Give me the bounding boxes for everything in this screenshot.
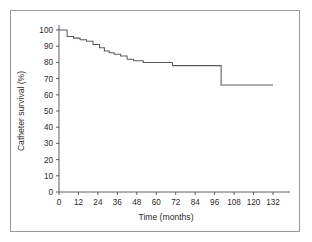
y-tick-label: 30 bbox=[44, 139, 54, 148]
x-tick-label: 0 bbox=[57, 198, 62, 207]
x-tick-label: 108 bbox=[227, 198, 241, 207]
x-tick-label: 60 bbox=[152, 198, 162, 207]
x-tick-label: 36 bbox=[113, 198, 123, 207]
y-tick-label: 40 bbox=[44, 123, 54, 132]
y-tick-label: 60 bbox=[44, 91, 54, 100]
figure-container: 0102030405060708090100 01224364860728496… bbox=[0, 0, 312, 242]
chart-canvas: 0102030405060708090100 01224364860728496… bbox=[0, 0, 312, 242]
x-tick-label: 72 bbox=[171, 198, 181, 207]
x-tick-label: 12 bbox=[74, 198, 84, 207]
y-axis-title: Catheter survival (%) bbox=[16, 71, 26, 151]
y-tick-label: 80 bbox=[44, 58, 54, 67]
x-tick-label: 120 bbox=[247, 198, 261, 207]
y-tick-label: 20 bbox=[44, 156, 54, 165]
x-axis-title: Time (months) bbox=[138, 212, 193, 222]
y-tick-label: 70 bbox=[44, 75, 54, 84]
y-tick-label: 0 bbox=[48, 188, 53, 197]
axes-group bbox=[59, 25, 290, 192]
x-tick-label: 48 bbox=[132, 198, 142, 207]
y-tick-label: 100 bbox=[39, 26, 53, 35]
x-tick-label: 24 bbox=[93, 198, 103, 207]
survival-curve bbox=[59, 30, 273, 85]
y-tick-label: 10 bbox=[44, 172, 54, 181]
x-axis-ticks: 01224364860728496108120132 bbox=[57, 192, 281, 207]
x-tick-label: 84 bbox=[191, 198, 201, 207]
y-axis-ticks: 0102030405060708090100 bbox=[39, 26, 59, 197]
y-tick-label: 90 bbox=[44, 42, 54, 51]
y-tick-label: 50 bbox=[44, 107, 54, 116]
x-tick-label: 132 bbox=[266, 198, 280, 207]
x-tick-label: 96 bbox=[210, 198, 220, 207]
